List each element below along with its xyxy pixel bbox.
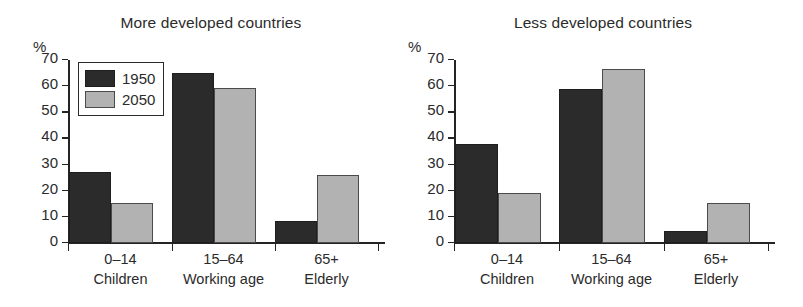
figure-population-age-structure: More developed countries % 70 60 50 40 3… <box>0 0 803 307</box>
bar-elderly-1950-right <box>664 231 707 243</box>
y-tick-60-right: 60 <box>448 85 454 86</box>
bar-group-elderly-right <box>664 60 768 243</box>
y-tick-60-left: 60 <box>62 85 68 86</box>
bar-group-elderly-left <box>275 60 378 243</box>
bar-group-working-age-right <box>559 60 664 243</box>
x-category-range: 0–14 <box>67 249 174 269</box>
legend-label-1950: 1950 <box>122 70 155 87</box>
y-tick-10-right: 10 <box>448 216 454 217</box>
bar-working-age-1950-left <box>172 73 214 243</box>
x-category-name: Elderly <box>662 269 770 289</box>
bar-children-2050-right <box>498 193 541 243</box>
x-category-range: 15–64 <box>557 249 666 269</box>
x-category-children-right: 0–14 Children <box>453 249 561 289</box>
x-category-name: Children <box>67 269 174 289</box>
x-category-working-age-left: 15–64 Working age <box>170 249 277 289</box>
legend-swatch-1950-icon <box>85 70 115 87</box>
chart-title-right: Less developed countries <box>388 14 788 32</box>
x-category-name: Children <box>453 269 561 289</box>
bar-group-working-age-left <box>172 60 275 243</box>
x-category-name: Elderly <box>273 269 380 289</box>
x-category-name: Working age <box>170 269 277 289</box>
y-tick-50-right: 50 <box>448 111 454 112</box>
bar-children-2050-left <box>111 203 153 244</box>
x-axis-labels-left: 0–14 Children 15–64 Working age 65+ Elde… <box>69 249 385 307</box>
legend-swatch-2050-icon <box>85 91 115 108</box>
x-category-name: Working age <box>557 269 666 289</box>
y-tick-30-right: 30 <box>448 164 454 165</box>
chart-panel-less-developed: Less developed countries % 70 60 50 40 3… <box>388 0 788 307</box>
bar-working-age-2050-left <box>214 88 256 244</box>
legend-label-2050: 2050 <box>122 91 155 108</box>
y-tick-70-right: 70 <box>448 59 454 60</box>
x-category-working-age-right: 15–64 Working age <box>557 249 666 289</box>
chart-legend: 1950 2050 <box>78 62 164 116</box>
bar-children-1950-right <box>455 144 498 243</box>
bar-children-1950-left <box>69 172 111 243</box>
bar-working-age-2050-right <box>602 69 645 243</box>
chart-panel-more-developed: More developed countries % 70 60 50 40 3… <box>0 0 400 307</box>
y-axis-unit-label-right: % <box>408 38 421 55</box>
legend-entry-2050: 2050 <box>85 89 155 110</box>
x-category-range: 65+ <box>662 249 770 269</box>
bar-elderly-2050-left <box>317 175 359 243</box>
bar-elderly-2050-right <box>707 203 750 244</box>
bar-group-children-right <box>455 60 559 243</box>
plot-area-right: 70 60 50 40 30 20 10 0 <box>455 60 775 243</box>
x-axis-labels-right: 0–14 Children 15–64 Working age 65+ Elde… <box>455 249 775 307</box>
y-tick-10-left: 10 <box>62 216 68 217</box>
x-category-range: 65+ <box>273 249 380 269</box>
y-tick-30-left: 30 <box>62 164 68 165</box>
y-tick-20-left: 20 <box>62 190 68 191</box>
y-tick-20-right: 20 <box>448 190 454 191</box>
legend-entry-1950: 1950 <box>85 68 155 89</box>
bar-elderly-1950-left <box>275 221 317 243</box>
x-category-elderly-left: 65+ Elderly <box>273 249 380 289</box>
x-category-children-left: 0–14 Children <box>67 249 174 289</box>
x-category-range: 15–64 <box>170 249 277 269</box>
bar-working-age-1950-right <box>559 89 602 243</box>
y-tick-50-left: 50 <box>62 111 68 112</box>
x-category-elderly-right: 65+ Elderly <box>662 249 770 289</box>
y-tick-70-left: 70 <box>62 59 68 60</box>
chart-title-left: More developed countries <box>0 14 400 32</box>
x-category-range: 0–14 <box>453 249 561 269</box>
bar-series-right <box>455 60 775 243</box>
y-tick-40-right: 40 <box>448 137 454 138</box>
y-tick-40-left: 40 <box>62 137 68 138</box>
